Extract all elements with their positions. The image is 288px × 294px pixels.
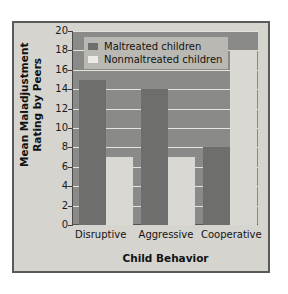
bar-maltreated-disruptive bbox=[79, 80, 106, 226]
legend-swatch-icon bbox=[88, 56, 98, 63]
y-axis-tick-labels: 0 2 4 6 8 10 12 14 16 18 20 bbox=[44, 31, 68, 225]
legend-label: Maltreated children bbox=[104, 41, 201, 52]
x-tick-label-cooperative: Cooperative bbox=[199, 229, 264, 240]
bar-nonmaltreated-cooperative bbox=[230, 50, 257, 225]
y-tick-label: 2 bbox=[46, 201, 68, 211]
y-axis-line bbox=[72, 31, 73, 226]
y-tick-label: 8 bbox=[46, 142, 68, 152]
bar-maltreated-aggressive bbox=[141, 89, 168, 225]
x-axis-tick-labels: Disruptive Aggressive Cooperative bbox=[68, 229, 264, 240]
y-tick-label: 18 bbox=[46, 45, 68, 55]
bar-maltreated-cooperative bbox=[203, 147, 230, 225]
y-tick-label: 4 bbox=[46, 181, 68, 191]
y-tick-label: 20 bbox=[46, 26, 68, 36]
legend-item-nonmaltreated: Nonmaltreated children bbox=[88, 53, 222, 66]
y-axis-title: Mean Maladjustment Rating by Peers bbox=[18, 30, 44, 180]
y-tick-label: 10 bbox=[46, 123, 68, 133]
y-axis-title-line1: Mean Maladjustment bbox=[18, 43, 30, 167]
y-tick-label: 16 bbox=[46, 65, 68, 75]
x-tick-label-aggressive: Aggressive bbox=[133, 229, 198, 240]
x-tick-label-disruptive: Disruptive bbox=[68, 229, 133, 240]
bar-nonmaltreated-disruptive bbox=[106, 157, 133, 225]
legend-item-maltreated: Maltreated children bbox=[88, 40, 222, 53]
legend: Maltreated children Nonmaltreated childr… bbox=[84, 37, 228, 69]
legend-swatch-icon bbox=[88, 43, 98, 50]
x-axis-title: Child Behavior bbox=[73, 252, 258, 264]
y-tick-label: 6 bbox=[46, 162, 68, 172]
y-tick-label: 14 bbox=[46, 84, 68, 94]
y-tick-label: 0 bbox=[46, 220, 68, 230]
bar-nonmaltreated-aggressive bbox=[168, 157, 195, 225]
y-tick-label: 12 bbox=[46, 104, 68, 114]
y-axis-title-line2: Rating by Peers bbox=[31, 58, 43, 152]
figure: Mean Maladjustment Rating by Peers 0 2 4… bbox=[0, 0, 288, 294]
legend-label: Nonmaltreated children bbox=[104, 54, 222, 65]
